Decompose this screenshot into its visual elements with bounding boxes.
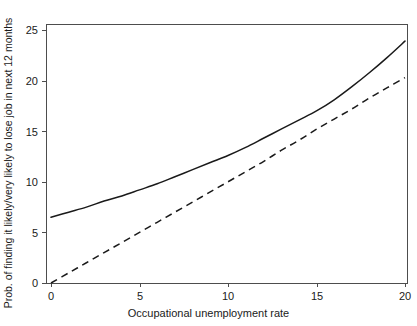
y-tick-label-0: 0 (16, 277, 38, 289)
x-tick-label-20: 20 (391, 290, 417, 302)
x-tick-label-15: 15 (303, 290, 331, 302)
y-tick-label-20: 20 (16, 75, 38, 87)
series-dashed-line (51, 78, 405, 283)
x-tick-label-5: 5 (126, 290, 154, 302)
y-tick-label-10: 10 (16, 176, 38, 188)
chart-figure: Prob. of finding it likely/very likely t… (0, 0, 417, 326)
y-tick-label-25: 25 (16, 24, 38, 36)
y-axis-title-container: Prob. of finding it likely/very likely t… (0, 0, 16, 326)
y-tick-label-5: 5 (16, 227, 38, 239)
y-tick-label-15: 15 (16, 126, 38, 138)
axis-frame (46, 24, 407, 283)
series-solid-curve (51, 41, 405, 217)
x-tick-label-0: 0 (37, 290, 65, 302)
x-tick-label-10: 10 (214, 290, 242, 302)
y-axis-ticks (42, 31, 46, 284)
y-axis-title: Prob. of finding it likely/very likely t… (2, 18, 14, 309)
plot-area (0, 0, 417, 326)
x-axis-title: Occupational unemployment rate (0, 307, 417, 319)
x-axis-ticks (52, 283, 406, 287)
